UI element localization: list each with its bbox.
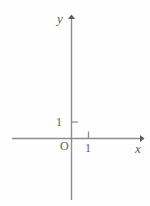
y-axis-label: y (57, 12, 63, 25)
axes-drawing (0, 0, 150, 206)
origin-label: O (60, 140, 69, 152)
coordinate-figure: y x 1 1 O (0, 0, 150, 206)
y-axis-tick-label-1: 1 (56, 116, 62, 128)
y-axis-arrowhead (68, 15, 75, 20)
x-axis-tick-label-1: 1 (85, 142, 91, 154)
x-axis-label: x (135, 142, 141, 155)
